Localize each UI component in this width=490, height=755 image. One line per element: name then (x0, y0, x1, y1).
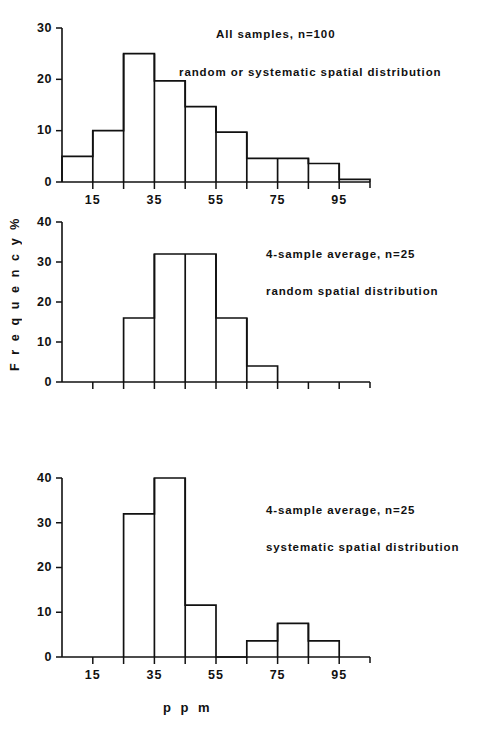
x-tick-label: 35 (146, 668, 162, 682)
y-tick-label: 40 (37, 471, 52, 485)
x-tick-label: 15 (85, 668, 101, 682)
x-tick-label: 75 (270, 193, 286, 207)
plot-area-top: 01020301535557595 (62, 28, 392, 208)
y-tick-label: 30 (37, 21, 52, 35)
y-tick-label: 0 (45, 650, 52, 664)
annotation-bottom-1: 4-sample average, n=25 (266, 504, 415, 516)
x-axis-title: p p m (163, 700, 213, 715)
panel-bottom: 0102030401535557595 4-sample average, n=… (0, 478, 490, 728)
x-tick-label: 75 (270, 668, 286, 682)
y-tick-label: 30 (37, 255, 52, 269)
x-tick-label: 95 (331, 668, 347, 682)
x-tick-label: 35 (146, 193, 162, 207)
panel-top: 01020301535557595 All samples, n=100 ran… (0, 0, 490, 215)
y-tick-label: 20 (37, 72, 52, 86)
y-tick-label: 30 (37, 516, 52, 530)
y-tick-label: 10 (37, 605, 52, 619)
annotation-top-1: All samples, n=100 (216, 28, 335, 40)
x-tick-label: 55 (208, 668, 224, 682)
y-tick-label: 10 (37, 335, 52, 349)
annotation-middle-1: 4-sample average, n=25 (266, 248, 415, 260)
annotation-middle-2: random spatial distribution (266, 285, 439, 297)
y-tick-label: 10 (37, 123, 52, 137)
y-tick-label: 0 (45, 175, 52, 189)
x-tick-label: 95 (331, 193, 347, 207)
panel-middle: 010203040 4-sample average, n=25 random … (0, 222, 490, 417)
y-tick-label: 0 (45, 375, 52, 389)
y-tick-label: 20 (37, 560, 52, 574)
histogram-outline (124, 254, 278, 382)
x-tick-label: 15 (85, 193, 101, 207)
annotation-bottom-2: systematic spatial distribution (266, 541, 459, 553)
x-tick-label: 55 (208, 193, 224, 207)
histogram-figure: F r e q u e n c y % 01020301535557595 Al… (0, 0, 490, 755)
y-tick-label: 20 (37, 295, 52, 309)
y-tick-label: 40 (37, 215, 52, 229)
annotation-top-2: random or systematic spatial distributio… (179, 66, 441, 78)
